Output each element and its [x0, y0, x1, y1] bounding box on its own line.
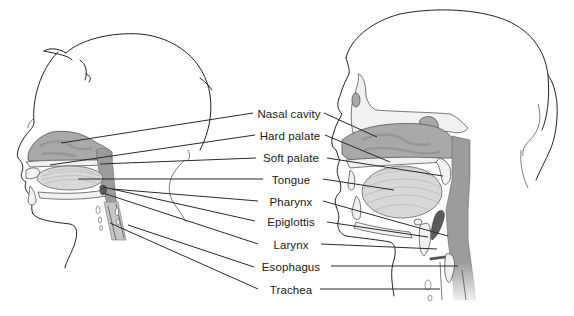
- leader-soft-palate: [100, 158, 256, 164]
- leader-epiglottis: [103, 187, 255, 221]
- label-trachea: Trachea: [270, 283, 312, 297]
- label-soft-palate: Soft palate: [263, 151, 319, 165]
- leader-pharynx: [112, 189, 258, 201]
- label-nasal-cavity: Nasal cavity: [257, 107, 320, 121]
- anatomy-figure: Nasal cavity Hard palate Soft palate Ton…: [0, 0, 574, 316]
- label-tongue: Tongue: [272, 173, 310, 187]
- label-esophagus: Esophagus: [262, 260, 320, 274]
- infant-tongue: [37, 166, 103, 190]
- label-larynx: Larynx: [273, 238, 308, 252]
- leader-trachea: [110, 223, 258, 289]
- leader-epiglottis: [327, 222, 428, 237]
- label-pharynx: Pharynx: [270, 195, 313, 209]
- leader-lines-left: [50, 113, 263, 289]
- adult-head: [332, 10, 557, 302]
- leader-larynx: [103, 193, 258, 244]
- leader-esophagus: [128, 225, 254, 267]
- infant-head: [17, 34, 212, 268]
- label-epiglottis: Epiglottis: [267, 215, 315, 229]
- adult-epiglottis: [431, 211, 444, 240]
- label-hard-palate: Hard palate: [260, 129, 321, 143]
- leader-nasal-cavity: [61, 113, 253, 143]
